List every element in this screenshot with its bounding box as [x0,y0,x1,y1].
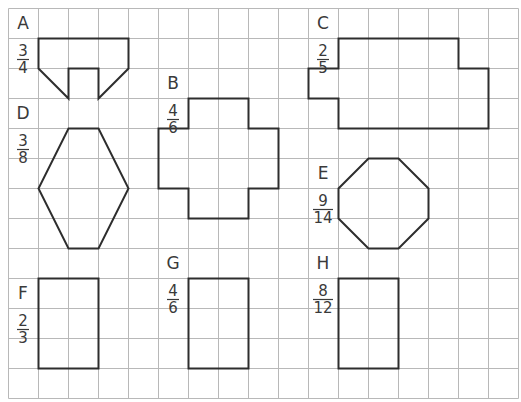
fraction-numerator: 8 [318,282,328,300]
figure-label: E [318,163,329,183]
fraction-numerator: 2 [18,312,28,330]
fraction: 34 [17,42,29,77]
figure-a: A34 [17,13,129,99]
square-grid [9,9,519,399]
fraction: 46 [167,102,179,137]
figures: A34B46C25D38E914F23G46H812 [16,13,488,369]
fraction-numerator: 2 [318,42,328,60]
fraction: 914 [313,192,333,227]
figure-outline [339,159,429,249]
fraction-numerator: 4 [168,282,178,300]
figure-d: D38 [16,103,128,249]
figure-label: C [317,13,329,33]
fraction: 25 [317,42,329,77]
figure-h: H812 [313,253,399,369]
fraction: 38 [17,132,29,167]
fraction: 23 [17,312,29,347]
fraction-denominator: 3 [18,329,28,347]
fraction-numerator: 3 [18,132,28,150]
fraction-numerator: 9 [318,192,328,210]
fraction-numerator: 3 [18,42,28,60]
fraction: 812 [313,282,333,317]
figure-f: F23 [17,279,99,369]
fraction-denominator: 4 [18,59,28,77]
figure-label: B [167,73,179,93]
figure-label: F [18,283,28,303]
fraction-denominator: 8 [18,149,28,167]
fraction-numerator: 4 [168,102,178,120]
figure-label: H [317,253,330,273]
fraction-denominator: 12 [313,299,332,317]
fraction-denominator: 5 [318,59,328,77]
figure-label: A [17,13,29,33]
figure-label: G [166,253,179,273]
fraction-shapes-diagram: A34B46C25D38E914F23G46H812 [0,0,521,402]
fraction: 46 [167,282,179,317]
figure-label: D [16,103,29,123]
figure-e: E914 [313,159,429,249]
figure-g: G46 [166,253,248,369]
fraction-denominator: 6 [168,299,178,317]
fraction-denominator: 14 [313,209,332,227]
fraction-denominator: 6 [168,119,178,137]
